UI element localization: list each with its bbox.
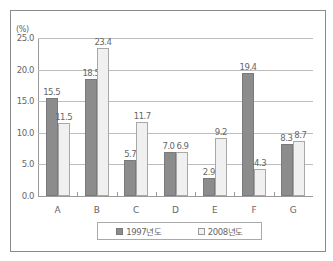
x-category-label: E xyxy=(205,205,225,215)
bar-G-1997 xyxy=(281,144,293,196)
legend-label-2008: 2008년도 xyxy=(208,225,243,237)
plot-area: 15.511.518.523.45.711.77.06.92.99.219.44… xyxy=(38,38,313,196)
bar-B-2008 xyxy=(97,48,109,196)
y-tick-label: 0.0 xyxy=(8,191,34,201)
y-tick-label: 15.0 xyxy=(8,96,34,106)
data-label: 11.7 xyxy=(130,111,154,121)
legend-label-1997: 1997년도 xyxy=(126,225,161,237)
x-category-label: C xyxy=(126,205,146,215)
data-label: 4.3 xyxy=(248,158,272,168)
data-label: 8.7 xyxy=(288,130,312,140)
bar-D-2008 xyxy=(176,152,188,196)
x-tick-mark xyxy=(117,192,118,196)
bar-A-2008 xyxy=(58,123,70,196)
x-tick-mark xyxy=(156,192,157,196)
data-label: 6.9 xyxy=(171,141,195,151)
legend: 1997년도 2008년도 xyxy=(97,222,262,240)
legend-swatch-light-icon xyxy=(198,228,205,235)
y-tick-label: 25.0 xyxy=(8,33,34,43)
bar-F-1997 xyxy=(242,73,254,196)
x-tick-mark xyxy=(234,192,235,196)
x-axis-line xyxy=(38,196,313,197)
x-category-label: B xyxy=(87,205,107,215)
y-tick-label: 20.0 xyxy=(8,65,34,75)
gridline xyxy=(38,101,313,102)
bar-C-1997 xyxy=(124,160,136,196)
x-category-label: D xyxy=(166,205,186,215)
legend-swatch-dark-icon xyxy=(116,228,123,235)
x-category-label: G xyxy=(283,205,303,215)
gridline xyxy=(38,133,313,134)
y-axis-line xyxy=(38,38,39,196)
bar-G-2008 xyxy=(293,141,305,196)
bar-E-1997 xyxy=(203,178,215,196)
data-label: 15.5 xyxy=(40,87,64,97)
data-label: 9.2 xyxy=(209,127,233,137)
x-tick-mark xyxy=(77,192,78,196)
legend-item-1997: 1997년도 xyxy=(116,225,161,237)
bar-B-1997 xyxy=(85,79,97,196)
data-label: 19.4 xyxy=(236,62,260,72)
bar-F-2008 xyxy=(254,169,266,196)
data-label: 23.4 xyxy=(91,37,115,47)
x-category-label: F xyxy=(244,205,264,215)
bar-E-2008 xyxy=(215,138,227,196)
y-tick-label: 5.0 xyxy=(8,159,34,169)
data-label: 11.5 xyxy=(52,112,76,122)
bar-C-2008 xyxy=(136,122,148,196)
x-tick-mark xyxy=(274,192,275,196)
y-tick-label: 10.0 xyxy=(8,128,34,138)
legend-item-2008: 2008년도 xyxy=(198,225,243,237)
gridline xyxy=(38,38,313,39)
bar-D-1997 xyxy=(164,152,176,196)
x-category-label: A xyxy=(48,205,68,215)
x-tick-mark xyxy=(195,192,196,196)
